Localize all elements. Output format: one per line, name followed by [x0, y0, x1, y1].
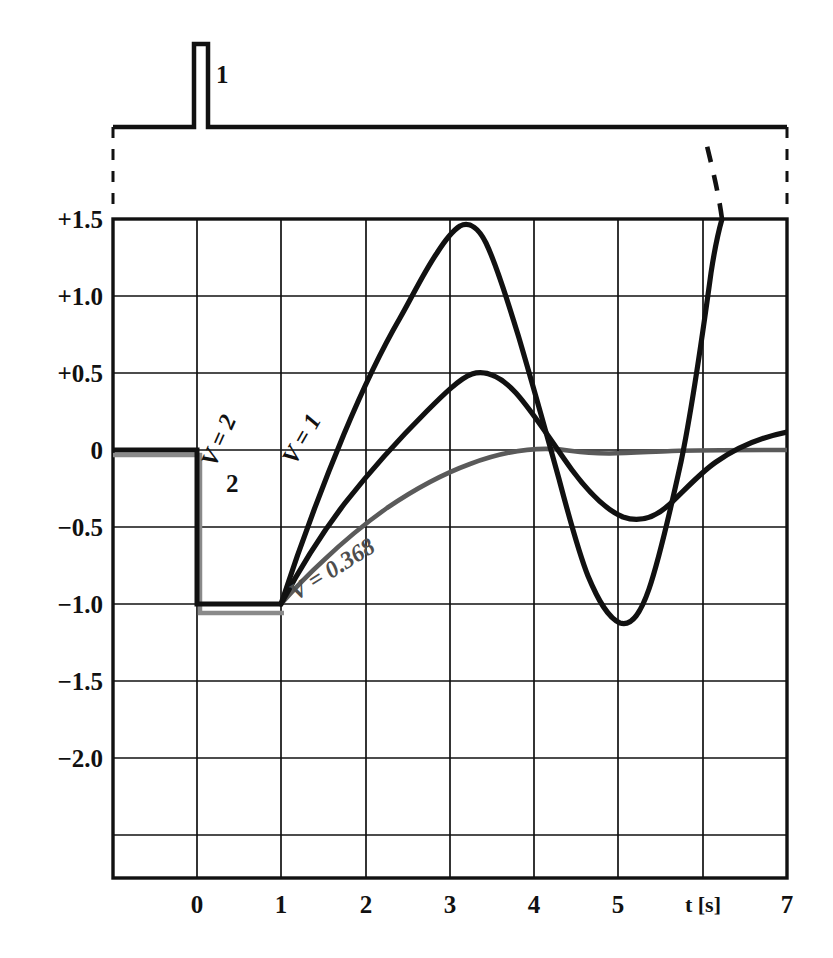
x-tick-label: 0	[191, 891, 204, 918]
x-tick-label: 5	[612, 891, 625, 918]
v-2-dashed-extension	[705, 138, 722, 219]
y-tick-label: 0	[91, 437, 104, 464]
plot-grid	[113, 219, 787, 878]
series-negative-step: 2	[113, 450, 284, 613]
y-axis-tick-labels: +1.5 +1.0 +0.5 0 −0.5 −1.0 −1.5 −2.0	[58, 206, 104, 772]
curve-label-v-2: V = 2	[196, 411, 241, 470]
figure-container: 1	[0, 0, 833, 958]
curve-label-v-1: V = 1	[277, 409, 326, 468]
y-tick-label: −1.0	[58, 591, 104, 618]
x-tick-label: 2	[360, 891, 373, 918]
x-axis-tick-labels: 0 1 2 3 4 5 t [s] 7	[191, 891, 794, 918]
top-panel-impulse: 1	[113, 44, 787, 215]
impulse-trace	[113, 44, 787, 127]
impulse-input-label: 1	[216, 61, 229, 88]
y-tick-label: +0.5	[58, 360, 104, 387]
y-tick-label: −1.5	[58, 668, 104, 695]
x-axis-unit-label: t [s]	[685, 892, 721, 917]
x-tick-label: 7	[781, 891, 794, 918]
y-tick-label: +1.5	[58, 206, 104, 233]
curve-labels: V = 2 V = 1 V = 0.368	[196, 409, 380, 605]
y-tick-label: +1.0	[58, 283, 104, 310]
x-tick-label: 4	[528, 891, 541, 918]
x-tick-label: 3	[444, 891, 457, 918]
y-tick-label: −0.5	[58, 514, 104, 541]
negative-step-input-label: 2	[226, 470, 239, 497]
y-tick-label: −2.0	[58, 745, 104, 772]
x-tick-label: 1	[275, 891, 288, 918]
impulse-and-step-response-figure: 1	[0, 0, 833, 958]
